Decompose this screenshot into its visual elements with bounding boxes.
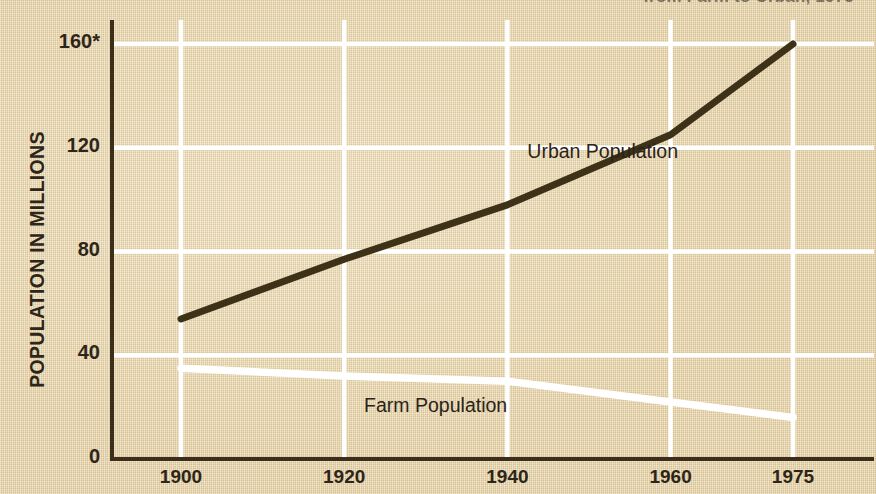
y-tick-80: 80 <box>0 238 100 261</box>
series-label-farm-population: Farm Population <box>364 394 507 417</box>
x-tick-1960: 1960 <box>611 466 731 488</box>
chart-canvas <box>0 0 876 494</box>
x-tick-1975: 1975 <box>733 466 853 488</box>
x-tick-1920: 1920 <box>284 466 404 488</box>
series-label-urban-population: Urban Population <box>527 140 678 163</box>
y-tick-160: 160* <box>0 30 100 53</box>
x-tick-1900: 1900 <box>121 466 241 488</box>
series-group <box>181 44 793 418</box>
horizontal-gridlines <box>112 44 874 355</box>
y-tick-120: 120 <box>0 134 100 157</box>
line-chart: POPULATION IN MILLIONS 04080120160* 1900… <box>0 0 876 494</box>
y-tick-0: 0 <box>0 445 100 468</box>
y-tick-40: 40 <box>0 341 100 364</box>
x-tick-1940: 1940 <box>447 466 567 488</box>
